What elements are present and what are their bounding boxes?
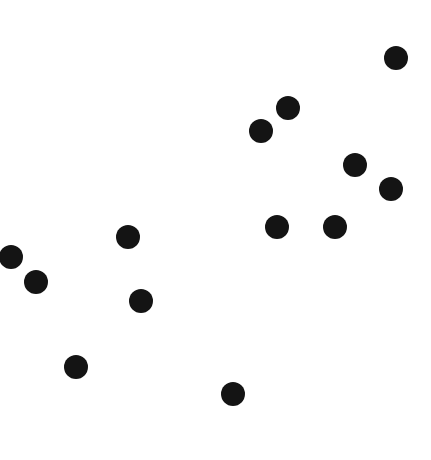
scatter-point (343, 153, 367, 177)
scatter-point (0, 245, 23, 269)
scatter-point (384, 46, 408, 70)
scatter-point (379, 177, 403, 201)
scatter-point (116, 225, 140, 249)
scatter-point (64, 355, 88, 379)
scatter-point (129, 289, 153, 313)
scatter-plot-canvas (0, 0, 431, 460)
scatter-plot-svg (0, 0, 431, 460)
scatter-point (249, 119, 273, 143)
scatter-point (265, 215, 289, 239)
scatter-point (276, 96, 300, 120)
plot-background (0, 0, 431, 460)
scatter-point (221, 382, 245, 406)
scatter-point (24, 270, 48, 294)
scatter-point (323, 215, 347, 239)
